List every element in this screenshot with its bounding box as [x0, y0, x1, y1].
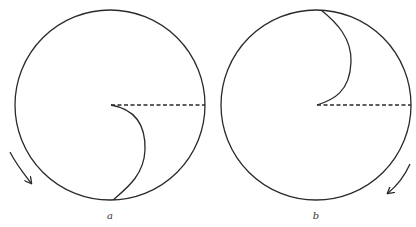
curved-trace-a	[111, 105, 145, 200]
curved-trace-b	[317, 10, 351, 105]
panel-label-a: a	[107, 210, 113, 221]
rotation-arrow-b-icon	[388, 164, 410, 193]
panel-b	[221, 10, 411, 200]
panel-a	[10, 10, 205, 200]
panel-label-b: b	[313, 210, 319, 221]
figure-canvas	[0, 0, 416, 227]
rotation-arrow-a-icon	[10, 152, 31, 183]
